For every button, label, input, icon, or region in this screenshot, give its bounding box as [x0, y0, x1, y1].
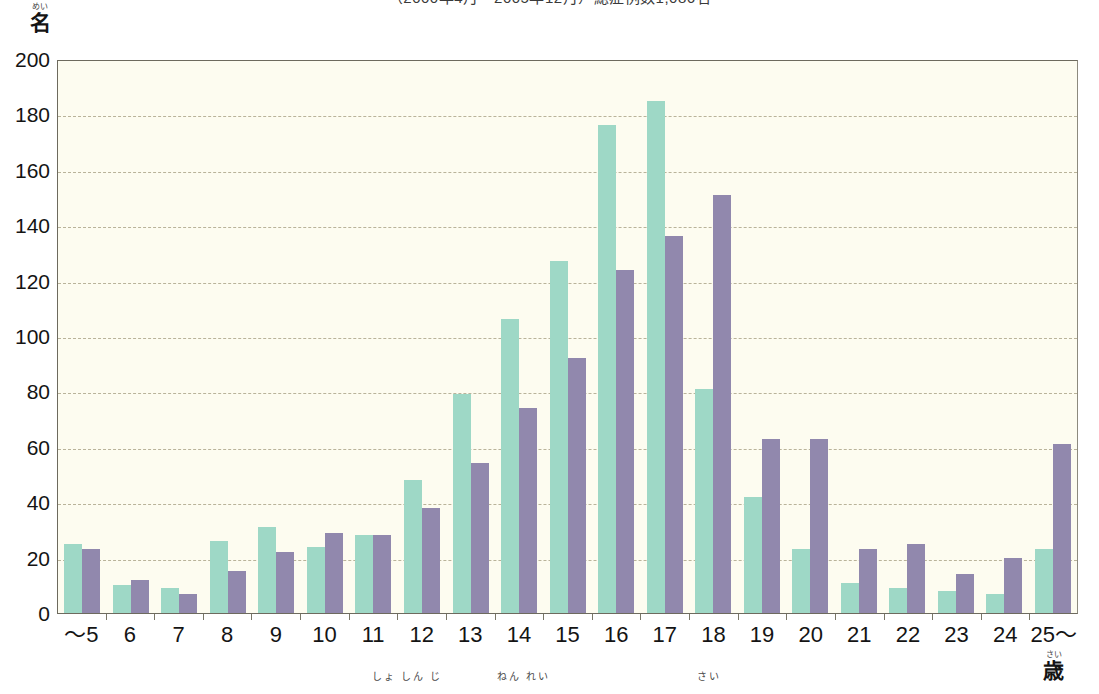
bar-series-a — [1035, 549, 1053, 613]
bar-series-a — [986, 594, 1004, 613]
bar-series-a — [258, 527, 276, 613]
bar-series-a — [550, 261, 568, 613]
bar-series-b — [131, 580, 149, 613]
y-axis-tick-label: 80 — [0, 381, 50, 402]
bar-series-a — [355, 535, 373, 613]
y-axis-tick-label: 60 — [0, 437, 50, 458]
bar-group — [835, 61, 884, 613]
x-axis-tick-label: 20 — [786, 620, 835, 654]
bar-series-a — [161, 588, 179, 613]
bar-group — [737, 61, 786, 613]
bar-series-b — [810, 439, 828, 614]
x-axis-tick-label: 25～さい歳 — [1030, 620, 1079, 654]
x-axis-tick-label: 22 — [884, 620, 933, 654]
x-axis-tick-label: 7 — [154, 620, 203, 654]
x-axis-tick-label: 18 — [689, 620, 738, 654]
x-axis-tick-labels: ～5678910111213141516171819202122232425～さ… — [57, 620, 1078, 654]
bar-group — [252, 61, 301, 613]
y-axis-tick-label: 200 — [0, 49, 50, 70]
x-axis-tick-label: 24 — [981, 620, 1030, 654]
bar-group — [107, 61, 156, 613]
x-axis-tick-label: 14 — [495, 620, 544, 654]
bar-series-b — [907, 544, 925, 613]
x-axis-tick-label: 21 — [835, 620, 884, 654]
x-axis-tick-label: 12 — [397, 620, 446, 654]
bar-series-a — [113, 585, 131, 613]
bar-series-b — [471, 463, 489, 613]
bar-group — [883, 61, 932, 613]
x-axis-tick-label: 9 — [252, 620, 301, 654]
y-axis-tick-label: 120 — [0, 271, 50, 292]
y-axis-tick-labels: 200180160140120100806040200 — [0, 0, 50, 694]
bar-group — [543, 61, 592, 613]
bar-group — [349, 61, 398, 613]
bar-group — [398, 61, 447, 613]
bar-series-a — [889, 588, 907, 613]
bar-series-b — [568, 358, 586, 613]
bar-group — [155, 61, 204, 613]
x-axis-tick-label: 19 — [738, 620, 787, 654]
bar-series-a — [307, 547, 325, 613]
bar-series-b — [665, 236, 683, 613]
x-axis-tick-label: 17 — [641, 620, 690, 654]
y-axis-tick-label: 160 — [0, 160, 50, 181]
bar-series-b — [179, 594, 197, 613]
bar-series-a — [938, 591, 956, 613]
bar-series-container — [58, 61, 1077, 613]
x-axis-tick-label: 13 — [446, 620, 495, 654]
bar-series-b — [859, 549, 877, 613]
x-axis-tick-label: 6 — [106, 620, 155, 654]
caption-ruby-chunk-1: しょ しん じ — [372, 670, 442, 684]
caption-ruby-chunk-2: ねん れい — [497, 670, 550, 684]
bar-series-b — [1053, 444, 1071, 613]
bar-series-a — [501, 319, 519, 613]
x-axis-tick-label: 11 — [349, 620, 398, 654]
x-axis-tick-label: 8 — [203, 620, 252, 654]
bar-group — [640, 61, 689, 613]
bar-series-b — [373, 535, 391, 613]
x-axis-tick-label: 10 — [300, 620, 349, 654]
bar-series-b — [762, 439, 780, 614]
bar-group — [592, 61, 641, 613]
bar-series-b — [616, 270, 634, 613]
y-axis-tick-label: 0 — [0, 603, 50, 624]
bar-series-a — [210, 541, 228, 613]
x-axis-tick-label: 15 — [543, 620, 592, 654]
y-axis-tick-label: 140 — [0, 215, 50, 236]
bar-series-a — [792, 549, 810, 613]
bar-series-b — [422, 508, 440, 613]
bar-series-b — [713, 195, 731, 613]
x-axis-tick-label: ～5 — [57, 620, 106, 654]
y-axis-tick-label: 180 — [0, 104, 50, 125]
bar-group — [446, 61, 495, 613]
bar-group — [495, 61, 544, 613]
bar-series-a — [647, 101, 665, 613]
bar-series-b — [519, 408, 537, 613]
x-axis-tick-label: 23 — [932, 620, 981, 654]
y-axis-tick-label: 100 — [0, 326, 50, 347]
bar-group — [689, 61, 738, 613]
bar-series-b — [82, 549, 100, 613]
plot-area — [57, 60, 1078, 614]
bar-series-b — [325, 533, 343, 613]
bar-series-a — [841, 583, 859, 613]
x-axis-tick-label: 16 — [592, 620, 641, 654]
x-axis-caption-ruby: しょ しん じ ねん れい さい — [0, 670, 1099, 690]
bar-series-b — [228, 571, 246, 613]
bar-series-a — [64, 544, 82, 613]
y-axis-tick-label: 20 — [0, 548, 50, 569]
bar-group — [204, 61, 253, 613]
bar-group — [301, 61, 350, 613]
bar-series-a — [453, 394, 471, 613]
bar-group — [58, 61, 107, 613]
bar-series-a — [598, 125, 616, 613]
bar-series-a — [695, 389, 713, 613]
bar-series-b — [276, 552, 294, 613]
bar-group — [980, 61, 1029, 613]
chart-title: （2000年4月～2005年12月）総症例数1,086名 — [0, 0, 1099, 7]
bar-series-b — [1004, 558, 1022, 613]
bar-series-b — [956, 574, 974, 613]
bar-group — [786, 61, 835, 613]
y-axis-tick-label: 40 — [0, 492, 50, 513]
bar-series-a — [404, 480, 422, 613]
